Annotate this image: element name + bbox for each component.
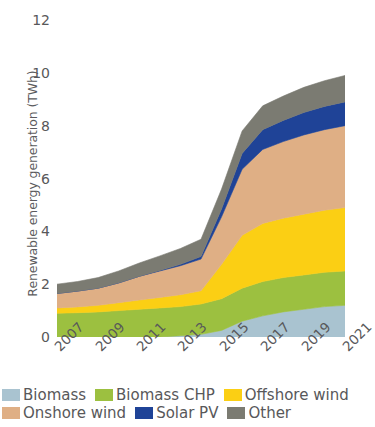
- legend-label-other: Other: [248, 406, 291, 421]
- legend-item-onshore-wind[interactable]: Onshore wind: [2, 406, 126, 421]
- y-axis-tick-0: 0: [41, 330, 50, 344]
- legend-swatch-biomass-chp: [95, 389, 113, 401]
- legend-item-solar-pv[interactable]: Solar PV: [135, 406, 218, 421]
- chart-legend: BiomassBiomass CHPOffshore windOnshore w…: [2, 386, 358, 422]
- legend-label-solar-pv: Solar PV: [156, 406, 218, 421]
- area-series-group: [57, 20, 345, 337]
- y-axis-tick-8: 8: [41, 119, 50, 133]
- y-axis-tick-2: 2: [41, 277, 50, 291]
- legend-swatch-solar-pv: [135, 407, 153, 419]
- legend-row-2: Onshore windSolar PVOther: [2, 404, 358, 422]
- y-axis-tick-12: 12: [32, 13, 50, 27]
- legend-swatch-other: [227, 407, 245, 419]
- legend-item-biomass[interactable]: Biomass: [2, 388, 86, 403]
- legend-label-biomass: Biomass: [23, 388, 86, 403]
- x-axis-tick-labels: 20072009201120132015201720192021: [57, 337, 357, 383]
- y-axis-tick-10: 10: [32, 66, 50, 80]
- legend-item-biomass-chp[interactable]: Biomass CHP: [95, 388, 215, 403]
- legend-label-onshore-wind: Onshore wind: [23, 406, 126, 421]
- legend-label-offshore-wind: Offshore wind: [245, 388, 349, 403]
- legend-label-biomass-chp: Biomass CHP: [116, 388, 215, 403]
- legend-item-offshore-wind[interactable]: Offshore wind: [224, 388, 349, 403]
- legend-item-other[interactable]: Other: [227, 406, 291, 421]
- legend-swatch-biomass: [2, 389, 20, 401]
- legend-row-1: BiomassBiomass CHPOffshore wind: [2, 386, 358, 404]
- y-axis-tick-4: 4: [41, 224, 50, 238]
- plot-area: [57, 20, 345, 337]
- y-axis-tick-6: 6: [41, 172, 50, 186]
- y-axis-tick-labels: 024681012: [22, 0, 50, 350]
- legend-swatch-onshore-wind: [2, 407, 20, 419]
- legend-swatch-offshore-wind: [224, 389, 242, 401]
